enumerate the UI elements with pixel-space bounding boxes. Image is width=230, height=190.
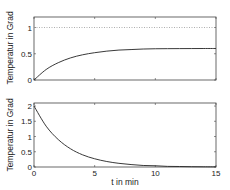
x-tick-label: 10 xyxy=(151,169,160,178)
y-tick-label: 0.5 xyxy=(21,50,33,59)
y-tick-label: 2 xyxy=(28,102,33,111)
top-y-axis-label: Temperatur in Grad xyxy=(5,11,15,84)
bottom-plot: 05101500.511.52 xyxy=(21,102,221,178)
y-tick-label: 1 xyxy=(28,133,33,142)
bottom-y-axis-label: Temperatur in Grad xyxy=(5,98,15,171)
y-tick-label: 1.5 xyxy=(21,117,33,126)
top-plot: 00.51 xyxy=(21,17,216,85)
x-tick-label: 15 xyxy=(212,169,221,178)
y-tick-label: 0 xyxy=(28,163,33,172)
y-tick-label: 0 xyxy=(28,76,33,85)
bottom-x-axis-label: t in min xyxy=(111,177,139,187)
y-tick-label: 0.5 xyxy=(21,148,33,157)
x-tick-label: 0 xyxy=(32,169,37,178)
chart-figure: 00.51 05101500.511.52 Temperatur in Grad… xyxy=(0,0,230,190)
axes-box xyxy=(34,103,216,167)
x-tick-label: 5 xyxy=(92,169,97,178)
y-tick-label: 1 xyxy=(28,24,33,33)
